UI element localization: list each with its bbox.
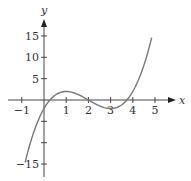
x-tick-label: 5 — [152, 104, 159, 117]
y-tick-label: 15 — [25, 30, 39, 43]
cubic-function-plot: −11234515105−15 x y — [0, 0, 191, 181]
y-tick-label: −15 — [16, 158, 39, 171]
x-axis-arrow-icon — [168, 97, 176, 103]
x-tick-label: 2 — [85, 104, 92, 117]
x-tick-label: 3 — [107, 104, 114, 117]
y-axis-label: y — [40, 4, 48, 17]
x-tick-label: 4 — [129, 104, 136, 117]
y-tick-label: 10 — [25, 51, 39, 64]
x-tick-label: 1 — [63, 104, 70, 117]
x-axis-label: x — [179, 94, 186, 107]
y-tick-label: 5 — [32, 73, 39, 86]
x-tick-label: −1 — [14, 104, 30, 117]
y-axis-arrow-icon — [41, 19, 47, 27]
